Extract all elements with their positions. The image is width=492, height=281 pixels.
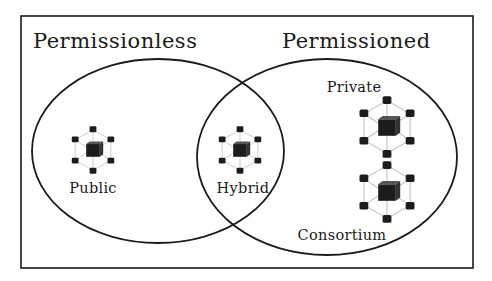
hybrid-node: Hybrid bbox=[217, 126, 270, 196]
venn-diagram: Permissionless Permissioned Public Hybri… bbox=[0, 0, 492, 281]
private-node: Private bbox=[327, 79, 415, 158]
private-label: Private bbox=[327, 79, 382, 95]
hybrid-label: Hybrid bbox=[217, 180, 270, 196]
blockchain-network-icon bbox=[219, 126, 262, 174]
permissionless-label: Permissionless bbox=[33, 29, 197, 53]
blockchain-network-icon bbox=[72, 126, 115, 174]
blockchain-network-icon bbox=[360, 96, 415, 158]
consortium-node: Consortium bbox=[298, 161, 415, 243]
public-label: Public bbox=[69, 180, 117, 196]
blockchain-network-icon bbox=[360, 161, 415, 223]
consortium-label: Consortium bbox=[298, 227, 387, 243]
permissioned-label: Permissioned bbox=[282, 29, 431, 53]
public-node: Public bbox=[69, 126, 117, 196]
